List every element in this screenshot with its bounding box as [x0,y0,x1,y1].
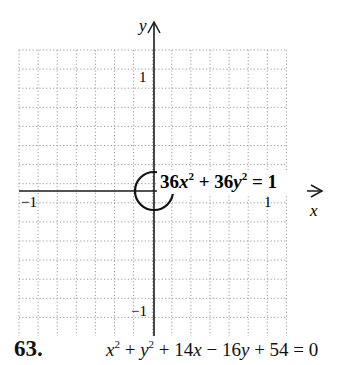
y-axis-label: y [137,16,147,35]
y-tick-neg1: −1 [131,303,147,319]
eq-term: + 54 = 0 [249,339,318,360]
problem-63: 63. x2 + y2 + 14x − 16y + 54 = 0 [14,336,340,362]
x-tick-1: 1 [264,194,272,210]
eq-var-x: x [193,339,201,360]
equation-label: 36x2 + 36y2 = 1 [160,170,277,192]
y-tick-1: 1 [139,69,147,85]
eq-term: + 14 [154,339,193,360]
problem-equation: x2 + y2 + 14x − 16y + 54 = 0 [106,338,318,361]
problem-number: 63. [14,336,43,362]
eq-op: + [120,339,140,360]
x-tick-neg1: −1 [21,194,37,210]
eq-term: − 16 [202,339,241,360]
eq-var-y: y [140,339,148,360]
x-axis-label: x [309,201,318,220]
circle-graph: y x −1 1 1 −1 36x2 + 36y2 = 1 [0,0,340,336]
